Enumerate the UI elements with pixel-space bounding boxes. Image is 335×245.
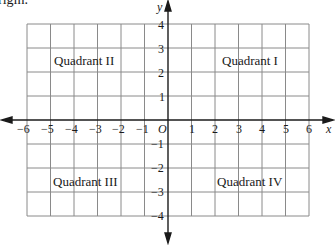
y-tick-label: −2	[151, 162, 164, 174]
x-tick-label: −6	[17, 123, 30, 135]
x-axis-left-arrow-icon	[2, 117, 12, 123]
x-tick-label: 6	[306, 123, 312, 135]
y-tick-label: −4	[151, 210, 164, 222]
quadrant-iii-label: Quadrant III	[53, 175, 118, 188]
x-tick-label: −4	[65, 123, 78, 135]
y-axis-label: y	[157, 1, 162, 13]
y-axis-down-arrow-icon	[165, 233, 171, 243]
x-tick-label: 2	[212, 123, 218, 135]
x-tick-label: −5	[41, 123, 54, 135]
y-tick-label: 3	[158, 43, 164, 55]
x-tick-label: −3	[89, 123, 102, 135]
y-tick-label: −3	[151, 186, 164, 198]
coordinate-plane-diagram: rigin.	[0, 0, 335, 245]
x-tick-label: 1	[189, 123, 195, 135]
y-tick-label: 2	[158, 67, 164, 79]
y-tick-label: 4	[158, 19, 164, 31]
origin-label: O	[158, 123, 167, 135]
x-axis-label: x	[326, 123, 331, 135]
y-tick-label: −1	[151, 138, 164, 150]
y-axis-up-arrow-icon	[165, 1, 171, 11]
y-tick-label: 1	[159, 91, 165, 103]
x-tick-label: 3	[236, 123, 242, 135]
x-tick-label: −2	[112, 123, 125, 135]
quadrant-iv-label: Quadrant IV	[217, 175, 282, 188]
x-tick-label: 4	[259, 123, 265, 135]
x-tick-label: −1	[136, 123, 149, 135]
x-tick-label: 5	[283, 123, 289, 135]
quadrant-ii-label: Quadrant II	[54, 54, 114, 67]
quadrant-i-label: Quadrant I	[222, 54, 278, 67]
